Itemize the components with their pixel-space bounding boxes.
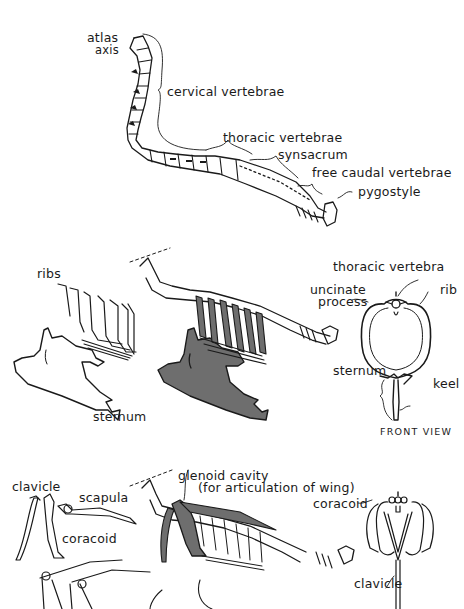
isolated-shoulder-bones	[16, 494, 150, 609]
bird-skeleton-diagram: atlas axis cervical vertebrae thoracic v…	[0, 0, 464, 609]
label-glenoid-articulation: (for articulation of wing)	[198, 482, 355, 495]
label-clavicle-left: clavicle	[12, 481, 61, 494]
label-clavicle-right: clavicle	[354, 578, 403, 591]
label-thoracic-vertebrae: thoracic vertebrae	[223, 132, 342, 145]
label-process: process	[318, 296, 367, 309]
label-keel: keel	[433, 378, 459, 391]
label-coracoid-right: coracoid	[313, 498, 368, 511]
pectoral-girdle-front-view	[358, 492, 433, 609]
label-free-caudal-vertebrae: free caudal vertebrae	[312, 167, 452, 180]
isolated-sternum	[14, 328, 120, 420]
label-pygostyle: pygostyle	[358, 186, 421, 199]
label-thoracic-vertebra: thoracic vertebra	[333, 261, 444, 274]
label-sternum-left: sternum	[93, 411, 146, 424]
label-sternum-right: sternum	[333, 365, 386, 378]
label-axis: axis	[95, 45, 119, 57]
label-cervical-vertebrae: cervical vertebrae	[167, 86, 284, 99]
label-synsacrum: synsacrum	[278, 149, 348, 162]
assembled-trunk-lateral	[130, 248, 338, 420]
label-front-view: FRONT VIEW	[380, 427, 452, 437]
label-ribs: ribs	[37, 268, 61, 281]
label-scapula: scapula	[79, 492, 128, 505]
label-rib: rib	[440, 284, 457, 297]
label-coracoid-left: coracoid	[62, 533, 117, 546]
